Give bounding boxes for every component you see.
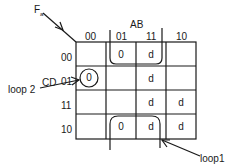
cell-10-11: d [166, 98, 196, 108]
row-header-01: 01 [61, 77, 72, 87]
col-variable-label: AB [130, 20, 143, 30]
cell-01-00: 0 [106, 50, 136, 60]
col-header-00: 00 [85, 32, 96, 42]
cell-11-00: d [136, 50, 166, 60]
function-subscript: a [40, 11, 43, 17]
cell-11-10: d [136, 122, 166, 132]
loop1-arrow [162, 140, 200, 156]
col-header-01: 01 [116, 32, 127, 42]
cell-01-10: 0 [106, 122, 136, 132]
col-header-10: 10 [176, 32, 187, 42]
cell-10-10: d [166, 122, 196, 132]
row-header-00: 00 [61, 53, 72, 63]
col-header-11: 11 [146, 32, 156, 42]
loop1-label: loop1 [200, 154, 224, 164]
loop2-label: loop 2 [8, 85, 35, 95]
function-arrow [43, 13, 76, 42]
cell-00-01: 0 [74, 73, 104, 83]
row-header-11: 11 [61, 101, 71, 111]
row-variable-label: CD [42, 78, 56, 88]
function-label: Fa [34, 5, 43, 19]
cell-11-11: d [136, 98, 166, 108]
cell-11-01: d [136, 74, 166, 84]
row-header-10: 10 [61, 125, 72, 135]
